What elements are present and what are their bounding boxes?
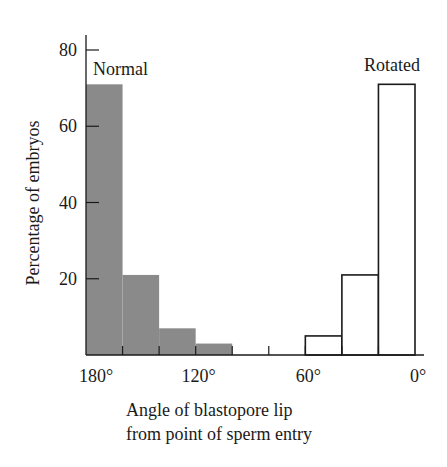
normal-bars bbox=[86, 84, 232, 355]
rotated-bars bbox=[305, 84, 415, 355]
y-tick-label: 60 bbox=[59, 116, 77, 136]
y-tick-label: 20 bbox=[59, 269, 77, 289]
bar-rotated bbox=[305, 336, 342, 355]
bar-normal bbox=[86, 84, 123, 355]
bar-normal bbox=[159, 328, 196, 355]
x-tick-label: 0° bbox=[410, 366, 426, 386]
x-tick-label: 180° bbox=[79, 366, 113, 386]
bar-rotated bbox=[342, 275, 379, 355]
x-ticks: 180°120°60°0° bbox=[79, 366, 426, 386]
y-tick-label: 80 bbox=[59, 40, 77, 60]
bar-rotated bbox=[378, 84, 415, 355]
y-axis-label: Percentage of embryos bbox=[23, 121, 43, 286]
x-tick-label: 120° bbox=[182, 366, 216, 386]
bar-normal bbox=[123, 275, 160, 355]
legend-rotated-label: Rotated bbox=[364, 55, 420, 75]
x-tick-label: 60° bbox=[296, 366, 321, 386]
x-axis-label-line-2: from point of sperm entry bbox=[126, 424, 312, 444]
bar-normal bbox=[196, 344, 233, 355]
legend-normal-label: Normal bbox=[93, 59, 148, 79]
y-tick-label: 40 bbox=[59, 193, 77, 213]
x-axis-label-line-1: Angle of blastopore lip bbox=[126, 400, 292, 420]
histogram-chart: 20406080 180°120°60°0° Normal Rotated Pe… bbox=[0, 0, 447, 467]
